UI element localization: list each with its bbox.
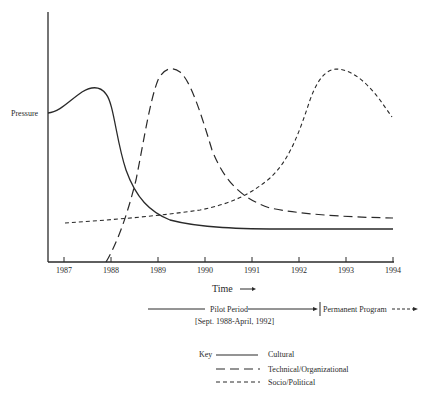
legend-key-label: Key (199, 350, 212, 359)
tick-label: 1988 (103, 266, 119, 275)
tick-label: 1989 (150, 266, 166, 275)
tick-label: 1993 (338, 266, 354, 275)
x-axis-label: Time (212, 283, 233, 294)
tick-label: 1992 (291, 266, 307, 275)
tick-label: 1990 (197, 266, 213, 275)
legend-label-socio: Socio/Political (268, 378, 316, 387)
legend: Key Cultural Technical/Organizational So… (199, 350, 349, 387)
y-axis-label: Pressure (11, 109, 39, 118)
pilot-dates-label: [Sept. 1988-April, 1992] (195, 317, 274, 326)
tick-label: 1994 (385, 266, 401, 275)
chart-canvas: 1987 1988 1989 1990 1991 1992 1993 1994 … (0, 0, 429, 401)
permanent-arrow-icon (413, 307, 418, 311)
series-cultural (48, 88, 393, 229)
pilot-arrow-icon (313, 307, 318, 311)
tick-label: 1987 (56, 266, 72, 275)
series-socio-political (65, 69, 392, 223)
time-arrow-icon (240, 287, 256, 291)
x-ticks (64, 257, 393, 262)
pilot-period-label: Pilot Period (210, 305, 248, 314)
permanent-program-label: Permanent Program (323, 305, 388, 314)
legend-label-technical: Technical/Organizational (268, 365, 349, 374)
tick-label: 1991 (244, 266, 260, 275)
series-technical-organizational (106, 69, 393, 262)
x-tick-labels: 1987 1988 1989 1990 1991 1992 1993 1994 (56, 266, 401, 275)
legend-label-cultural: Cultural (268, 350, 295, 359)
